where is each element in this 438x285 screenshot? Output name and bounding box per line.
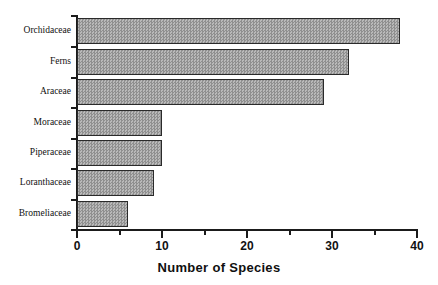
category-label-ferns: Ferns <box>0 57 71 67</box>
x-axis-major-tick <box>161 231 163 238</box>
x-axis-major-tick <box>246 231 248 238</box>
category-label-piperaceae: Piperaceae <box>0 148 71 158</box>
x-axis-major-tick <box>416 231 418 238</box>
bar-rect <box>77 201 128 227</box>
category-label-orchidaceae: Orchidaceae <box>0 26 71 36</box>
bar-chart: OrchidaceaeFernsAraceaeMoraceaePiperacea… <box>0 0 438 285</box>
x-axis-minor-tick <box>374 231 376 235</box>
category-label-bromeliaceae: Bromeliaceae <box>0 209 71 219</box>
category-label-araceae: Araceae <box>0 87 71 97</box>
y-axis-tick <box>71 138 77 140</box>
bar-rect <box>77 49 349 75</box>
bar-rect <box>77 18 400 44</box>
x-axis-tick-label-10: 10 <box>155 239 168 253</box>
y-axis-tick <box>71 199 77 201</box>
x-axis-tick-label-0: 0 <box>74 239 81 253</box>
category-label-moraceae: Moraceae <box>0 118 71 128</box>
x-axis-minor-tick <box>289 231 291 235</box>
y-axis-tick <box>71 168 77 170</box>
x-axis-tick-label-20: 20 <box>240 239 253 253</box>
x-axis-tick-label-30: 30 <box>325 239 338 253</box>
y-axis-tick <box>71 107 77 109</box>
category-label-loranthaceae: Loranthaceae <box>0 178 71 188</box>
bar-araceae <box>77 79 324 105</box>
bar-orchidaceae <box>77 18 400 44</box>
y-axis-tick <box>71 15 77 17</box>
x-axis-title: Number of Species <box>0 260 438 275</box>
y-axis-tick <box>71 46 77 48</box>
x-axis-major-tick <box>331 231 333 238</box>
bar-rect <box>77 140 162 166</box>
x-axis-major-tick <box>76 231 78 238</box>
bar-moraceae <box>77 110 162 136</box>
bar-rect <box>77 110 162 136</box>
bar-bromeliaceae <box>77 201 128 227</box>
bar-loranthaceae <box>77 170 154 196</box>
bar-ferns <box>77 49 349 75</box>
x-axis-tick-label-40: 40 <box>410 239 423 253</box>
x-axis-minor-tick <box>204 231 206 235</box>
bar-piperaceae <box>77 140 162 166</box>
bar-rect <box>77 79 324 105</box>
bar-rect <box>77 170 154 196</box>
y-axis-tick <box>71 77 77 79</box>
x-axis-minor-tick <box>119 231 121 235</box>
